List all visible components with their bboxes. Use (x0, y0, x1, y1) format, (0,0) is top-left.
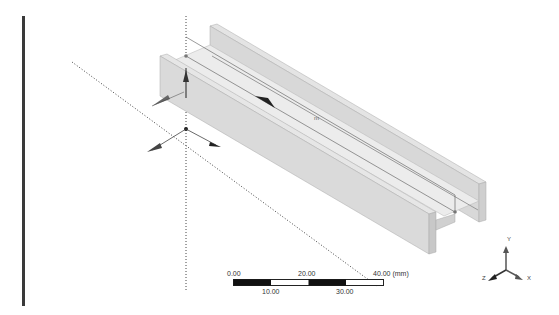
graphics-viewport[interactable]: m 0.00 20.00 40.00 (mm) 10.00 30.00 (0, 0, 559, 315)
triad-x-label: X (527, 275, 531, 281)
triad-z-label: Z (482, 275, 486, 281)
triad-y-label: Y (507, 236, 511, 242)
